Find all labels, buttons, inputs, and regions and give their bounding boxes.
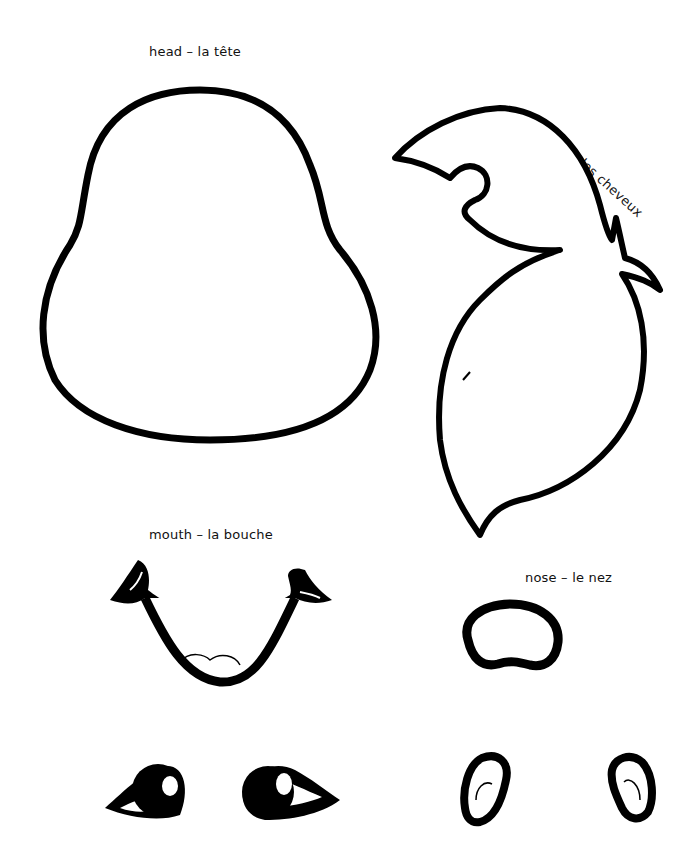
head-shape[interactable] <box>43 90 376 440</box>
ears-shape[interactable] <box>464 756 652 822</box>
cutout-sheet <box>0 0 699 852</box>
nose-shape[interactable] <box>467 604 558 666</box>
eyes-shape[interactable] <box>105 764 340 820</box>
mouth-shape[interactable] <box>110 560 332 682</box>
hair-shape[interactable] <box>395 108 660 535</box>
